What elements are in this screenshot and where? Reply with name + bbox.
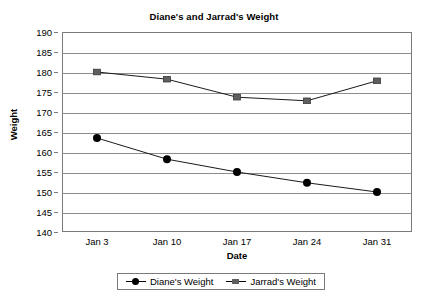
- y-tick-mark: [54, 32, 58, 33]
- series-line: [97, 138, 377, 192]
- y-tick-mark: [54, 52, 58, 53]
- y-tick-label: 190: [36, 27, 52, 38]
- x-tick-label: Jan 31: [363, 236, 392, 247]
- y-tick-label: 170: [36, 107, 52, 118]
- x-axis-tick-labels: Jan 3Jan 10Jan 17Jan 24Jan 31: [62, 236, 412, 250]
- data-point-marker: [93, 134, 101, 142]
- legend-circle-marker-icon: [126, 277, 146, 286]
- x-tick-label: Jan 3: [85, 236, 108, 247]
- data-point-marker: [94, 69, 101, 75]
- chart-title: Diane's and Jarrad's Weight: [0, 11, 428, 22]
- y-tick-mark: [54, 92, 58, 93]
- y-tick-mark: [54, 132, 58, 133]
- y-tick-label: 160: [36, 147, 52, 158]
- legend-label: Jarrad's Weight: [250, 276, 316, 287]
- data-point-marker: [164, 76, 171, 82]
- y-tick-mark: [54, 72, 58, 73]
- y-tick-label: 140: [36, 227, 52, 238]
- data-point-marker: [163, 155, 171, 163]
- y-tick-mark: [54, 232, 58, 233]
- x-tick-label: Jan 10: [153, 236, 182, 247]
- y-tick-mark: [54, 112, 58, 113]
- y-axis-tick-labels: 190185180175170165160155150145140: [0, 32, 58, 232]
- legend-label: Diane's Weight: [150, 276, 213, 287]
- y-tick-mark: [54, 212, 58, 213]
- chart-legend: Diane's WeightJarrad's Weight: [117, 273, 325, 290]
- data-point-marker: [233, 168, 241, 176]
- data-point-marker: [234, 94, 241, 100]
- data-point-marker: [373, 188, 381, 196]
- y-tick-label: 180: [36, 67, 52, 78]
- x-tick-label: Jan 17: [223, 236, 252, 247]
- y-tick-label: 165: [36, 127, 52, 138]
- data-point-marker: [304, 98, 311, 104]
- y-tick-label: 185: [36, 47, 52, 58]
- y-tick-mark: [54, 172, 58, 173]
- y-tick-label: 145: [36, 207, 52, 218]
- chart-container: Diane's and Jarrad's Weight Weight 19018…: [0, 0, 428, 303]
- y-tick-label: 155: [36, 167, 52, 178]
- y-tick-label: 150: [36, 187, 52, 198]
- x-tick-label: Jan 24: [293, 236, 322, 247]
- series-layer: [62, 32, 412, 232]
- x-axis-title: Date: [62, 250, 412, 261]
- legend-square-marker-icon: [226, 277, 246, 286]
- y-tick-label: 175: [36, 87, 52, 98]
- y-tick-mark: [54, 152, 58, 153]
- legend-entry[interactable]: Diane's Weight: [126, 276, 213, 287]
- data-point-marker: [303, 179, 311, 187]
- y-tick-mark: [54, 192, 58, 193]
- legend-entry[interactable]: Jarrad's Weight: [226, 276, 316, 287]
- data-point-marker: [374, 78, 381, 84]
